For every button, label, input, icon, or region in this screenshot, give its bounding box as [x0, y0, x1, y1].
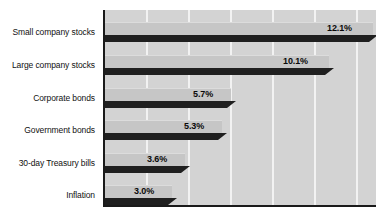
bar-shadow — [105, 35, 369, 42]
category-label-treasury-bills: 30-day Treasury bills — [19, 159, 95, 168]
bar-shadow — [105, 101, 227, 108]
bar-tip — [227, 101, 236, 108]
category-label-inflation: Inflation — [66, 191, 95, 200]
bar-body — [105, 153, 185, 167]
bar-shadow — [105, 166, 181, 173]
bar-tip — [218, 133, 227, 140]
bar-series: 12.1% 10.1% 5.7% 5.3% — [105, 10, 376, 205]
category-axis-labels: Small company stocks Large company stock… — [0, 10, 99, 207]
bar-value-label: 3.6% — [147, 153, 167, 166]
bar-value-label: 3.0% — [134, 185, 154, 198]
category-label-small-company-stocks: Small company stocks — [12, 28, 95, 37]
bar-value-label: 12.1% — [327, 22, 352, 35]
bar-shadow — [105, 133, 218, 140]
bar-value-label: 5.7% — [193, 88, 213, 101]
bar-tip — [325, 68, 334, 75]
category-label-large-company-stocks: Large company stocks — [12, 61, 95, 70]
bar-tip — [369, 35, 376, 42]
bar-value-label: 10.1% — [283, 55, 308, 68]
bar-tip — [181, 166, 190, 173]
bar-shadow — [105, 68, 325, 75]
bar-shadow — [105, 198, 168, 205]
plot-area: 12.1% 10.1% 5.7% 5.3% — [103, 10, 376, 207]
bar-value-label: 5.3% — [184, 120, 204, 133]
bar-chart: Small company stocks Large company stock… — [0, 0, 380, 220]
category-label-corporate-bonds: Corporate bonds — [33, 94, 95, 103]
bar-tip — [168, 198, 177, 205]
bar-body — [105, 120, 222, 134]
category-label-government-bonds: Government bonds — [24, 126, 95, 135]
